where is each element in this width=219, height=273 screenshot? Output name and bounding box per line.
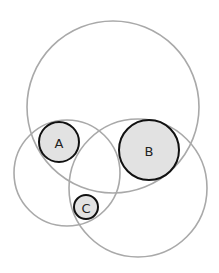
label-a: A [55,136,64,151]
label-b: B [145,144,154,159]
set-b: B [119,120,179,180]
set-a: A [39,122,79,162]
label-c: C [81,201,90,216]
set-c: C [74,195,98,219]
euler-diagram: A B C [0,0,219,273]
